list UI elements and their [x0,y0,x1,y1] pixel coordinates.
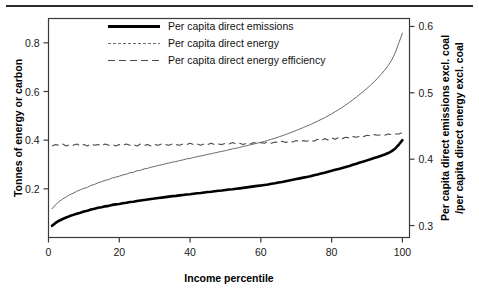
right-tick-label: 0.5 [419,87,434,99]
x-tick-label: 80 [326,246,338,258]
right-axis-ticks [410,26,415,225]
x-tick-label: 60 [255,246,267,258]
x-tick-label: 0 [46,246,52,258]
series-line-per-capita-direct-emissions [52,140,402,226]
y-axis-title: Tonnes of energy or carbon [12,59,24,197]
left-tick-label: 0.4 [25,134,40,146]
x-tick-label: 100 [394,246,412,258]
y2-axis-title-line2: /per capita direct energy excl. coal [453,42,465,214]
left-tick-label: 0.2 [25,183,40,195]
y2-axis-title-line1: Per capita direct emissions excl. coal [439,35,451,221]
line-chart: 0.20.40.60.8 0.30.40.50.6 020406080100 T… [0,0,479,288]
legend-label-emissions: Per capita direct emissions [168,20,293,32]
x-axis-title: Income percentile [184,272,273,284]
left-axis-tick-labels: 0.20.40.60.8 [25,37,40,195]
left-tick-label: 0.8 [25,37,40,49]
right-tick-label: 0.6 [419,20,434,32]
top-divider-rule [6,5,473,7]
x-tick-label: 20 [113,246,125,258]
bottom-axis-tick-labels: 020406080100 [46,246,412,258]
legend-label-efficiency: Per capita direct energy efficiency [168,54,326,66]
series-line-per-capita-direct-energy-efficiency [52,133,402,146]
right-axis-tick-labels: 0.30.40.50.6 [419,20,434,231]
legend-label-energy: Per capita direct energy [168,37,280,49]
right-tick-label: 0.4 [419,153,434,165]
chart-legend: Per capita direct emissions Per capita d… [108,20,326,66]
right-tick-label: 0.3 [419,220,434,232]
plot-frame [49,19,410,238]
chart-figure: 0.20.40.60.8 0.30.40.50.6 020406080100 T… [0,0,479,288]
bottom-axis-ticks [49,238,403,243]
left-tick-label: 0.6 [25,86,40,98]
x-tick-label: 40 [184,246,196,258]
left-axis-ticks [44,43,49,189]
